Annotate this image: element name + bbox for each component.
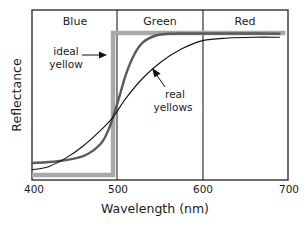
region-label-green: Green [143,15,176,28]
region-label-blue: Blue [63,15,88,28]
annotation-ideal-line1: ideal [53,45,78,57]
x-tick-600: 600 [193,183,213,195]
region-label-red: Red [235,15,256,28]
reflectance-chart: Blue Green Red ideal yellow real yellows… [0,0,306,226]
x-tick-500: 500 [108,183,128,195]
arrow-up-left-icon [152,68,165,87]
arrow-right-icon [82,52,107,59]
annotation-real-line2: yellows [154,101,193,113]
x-tick-700: 700 [279,183,299,195]
annotation-ideal-line2: yellow [49,58,83,70]
y-axis-label: Reflectance [9,58,24,132]
x-tick-400: 400 [24,183,44,195]
annotation-real-line1: real [165,88,185,100]
x-axis-label: Wavelength (nm) [101,201,209,216]
